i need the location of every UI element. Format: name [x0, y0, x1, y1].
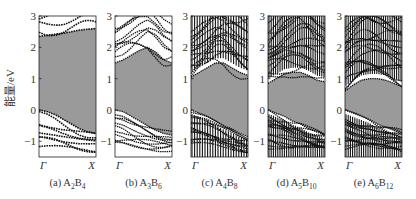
formula-element: B: [151, 177, 158, 188]
y-tick-label: 1: [107, 73, 113, 85]
y-tick-label: 0: [107, 104, 113, 116]
y-axis-label: 能量/eV: [3, 69, 16, 107]
kpoint-gamma-label: Γ: [345, 159, 353, 171]
panel-caption: (b) A3B6: [125, 177, 162, 191]
kpoint-gamma-label: Γ: [39, 159, 47, 171]
kpoint-x-label: X: [87, 159, 96, 171]
caption-label: (c): [202, 177, 216, 189]
y-tick-label: 2: [31, 41, 37, 53]
formula-element: B: [302, 177, 309, 188]
y-tick-label: 0: [337, 104, 343, 116]
y-axis-label-group: 能量/eV: [3, 69, 16, 107]
y-tick-label: −1: [176, 135, 188, 147]
formula-subscript: 10: [309, 182, 317, 191]
formula-subscript: 12: [386, 182, 394, 191]
y-tick-label: 0: [31, 104, 37, 116]
panel-caption: (e) A6B12: [354, 177, 394, 191]
formula-element: B: [379, 177, 386, 188]
band-structure-figure: 能量/eV 3210−1ΓX(a) A2B43210−1ΓX(b) A3B632…: [0, 0, 416, 199]
kpoint-x-label: X: [239, 159, 248, 171]
y-tick-label: 3: [31, 10, 37, 22]
y-tick-label: 0: [183, 104, 189, 116]
y-tick-label: 1: [183, 73, 189, 85]
kpoint-x-label: X: [163, 159, 172, 171]
y-tick-label: 1: [337, 73, 343, 85]
y-tick-label: 3: [337, 10, 343, 22]
caption-label: (b): [125, 177, 139, 189]
kpoint-x-label: X: [316, 159, 325, 171]
panels: 3210−1ΓX(a) A2B43210−1ΓX(b) A3B63210−1ΓX…: [24, 8, 402, 191]
formula-subscript: 6: [158, 182, 162, 191]
y-tick-label: 1: [260, 73, 266, 85]
y-tick-label: −1: [100, 135, 112, 147]
kpoint-gamma-label: Γ: [268, 159, 276, 171]
panel-caption: (c) A4B8: [202, 177, 238, 191]
kpoint-gamma-label: Γ: [115, 159, 123, 171]
formula-subscript: 4: [82, 182, 86, 191]
y-tick-label: 1: [31, 73, 37, 85]
panel-caption: (a) A2B4: [50, 177, 86, 191]
y-tick-label: 3: [183, 10, 189, 22]
y-tick-label: 2: [260, 41, 266, 53]
kpoint-gamma-label: Γ: [191, 159, 199, 171]
caption-label: (e): [354, 177, 368, 189]
y-tick-label: 2: [107, 41, 113, 53]
formula-element: B: [227, 177, 234, 188]
kpoint-x-label: X: [393, 159, 402, 171]
y-tick-label: 0: [260, 104, 266, 116]
y-tick-label: −1: [24, 135, 36, 147]
panel-c: 3210−1ΓX(c) A4B8: [176, 8, 248, 191]
panel-e: 3210−1ΓX(e) A6B12: [330, 10, 402, 191]
caption-label: (a): [50, 177, 64, 189]
panel-caption: (d) A5B10: [276, 177, 316, 191]
formula-subscript: 8: [234, 182, 238, 191]
panel-d: 3210−1ΓX(d) A5B10: [253, 8, 325, 191]
y-tick-label: −1: [330, 135, 342, 147]
formula-element: B: [75, 177, 82, 188]
y-tick-label: 3: [107, 10, 113, 22]
panel-b: 3210−1ΓX(b) A3B6: [100, 9, 172, 191]
caption-label: (d): [276, 177, 290, 189]
y-tick-label: −1: [253, 135, 265, 147]
y-tick-label: 3: [260, 10, 266, 22]
y-tick-label: 2: [183, 41, 189, 53]
panel-a: 3210−1ΓX(a) A2B4: [24, 9, 96, 191]
y-tick-label: 2: [337, 41, 343, 53]
